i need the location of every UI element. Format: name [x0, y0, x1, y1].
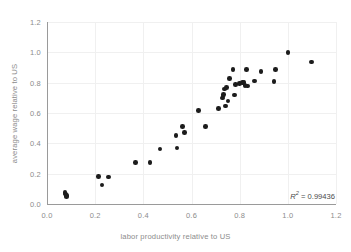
- data-point: [231, 67, 236, 72]
- gridline-horizontal: [47, 174, 336, 175]
- y-tick-label: 0.6: [15, 109, 41, 118]
- y-tick-label: 1.0: [15, 48, 41, 57]
- data-point: [286, 50, 291, 55]
- data-point: [224, 85, 229, 90]
- data-point: [203, 124, 208, 129]
- data-point: [227, 76, 232, 81]
- data-point: [106, 175, 111, 180]
- data-point: [158, 147, 163, 152]
- x-tick-label: 1.2: [321, 211, 351, 220]
- data-point: [221, 92, 226, 97]
- data-point: [182, 130, 187, 135]
- x-tick-label: 1.0: [273, 211, 303, 220]
- data-point: [272, 79, 277, 84]
- x-tick-label: 0.4: [128, 211, 158, 220]
- x-tick-label: 0.2: [80, 211, 110, 220]
- gridline-horizontal: [47, 22, 336, 23]
- data-point: [223, 104, 228, 109]
- data-point: [252, 79, 257, 84]
- gridline-horizontal: [47, 83, 336, 84]
- x-axis-title: labor productivity relative to US: [0, 232, 351, 241]
- data-point: [100, 183, 105, 188]
- data-point: [273, 67, 278, 72]
- plot-area: [47, 22, 336, 204]
- gridline-vertical: [336, 22, 337, 204]
- x-tick-label: 0.0: [32, 211, 62, 220]
- data-point: [96, 174, 101, 179]
- data-point: [232, 93, 237, 98]
- data-point: [259, 69, 264, 74]
- data-point: [175, 146, 180, 151]
- data-point: [309, 60, 314, 65]
- data-point: [180, 124, 185, 129]
- r-squared-value: = 0.99436: [299, 192, 335, 201]
- gridline-horizontal: [47, 113, 336, 114]
- y-tick-label: 1.2: [15, 18, 41, 27]
- y-tick-label: 0.2: [15, 169, 41, 178]
- data-point: [244, 67, 249, 72]
- x-axis-line: [47, 204, 336, 205]
- y-tick-label: 0.4: [15, 139, 41, 148]
- data-point: [174, 133, 179, 138]
- y-axis-title: average wage relative to US: [10, 29, 19, 199]
- y-axis-line: [47, 22, 48, 205]
- data-point: [216, 106, 221, 111]
- r-squared-annotation: R2 = 0.99436: [290, 190, 335, 201]
- data-point: [196, 108, 201, 113]
- y-tick-label: 0.8: [15, 78, 41, 87]
- scatter-chart: 0.00.20.40.60.81.01.2 0.00.20.40.60.81.0…: [0, 0, 351, 252]
- gridline-horizontal: [47, 143, 336, 144]
- data-point: [133, 160, 138, 165]
- data-point: [148, 160, 153, 165]
- y-tick-label: 0.0: [15, 200, 41, 209]
- data-point: [245, 84, 250, 89]
- data-point: [226, 99, 231, 104]
- x-tick-label: 0.6: [177, 211, 207, 220]
- x-tick-label: 0.8: [225, 211, 255, 220]
- data-point: [64, 194, 69, 199]
- gridline-horizontal: [47, 52, 336, 53]
